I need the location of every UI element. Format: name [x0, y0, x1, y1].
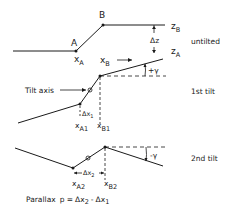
label-plus-gamma: +γ	[148, 66, 159, 75]
untilted-profile	[13, 24, 165, 54]
delta-x2-arrowhead-left-icon	[74, 172, 77, 175]
label-z-b: zB	[171, 21, 180, 34]
label-point-a: A	[71, 38, 78, 48]
point-a2-marker	[72, 167, 75, 170]
point-b-marker	[102, 24, 105, 27]
label-x-b: xB	[100, 55, 110, 68]
label-x-b2: xB2	[104, 179, 117, 191]
label-tilt-axis: Tilt axis	[24, 86, 54, 95]
label-minus-gamma: -γ	[150, 151, 158, 160]
label-delta-z: Δz	[150, 36, 159, 45]
label-second-tilt: 2nd tilt	[191, 154, 218, 163]
label-first-tilt: 1st tilt	[191, 87, 215, 96]
label-z-a: zA	[171, 46, 181, 59]
label-point-b: B	[99, 10, 105, 20]
label-x-a1: xA1	[75, 121, 88, 133]
parallax-formula: Parallaxp =Δx2-Δx1	[26, 195, 109, 206]
label-x-a2: xA2	[72, 179, 85, 191]
label-x-a: xA	[74, 54, 84, 67]
delta-x2-arrowhead-right-icon	[101, 172, 104, 175]
point-a1-marker	[79, 103, 82, 106]
point-a-marker	[75, 50, 78, 53]
label-x-b1: xB1	[97, 121, 110, 133]
label-delta-x1: Δx1	[82, 110, 93, 119]
label-untilted: untilted	[191, 37, 220, 46]
parallax-diagram: B A xA zB zA Δz untilted xB +γ Tilt axis…	[0, 0, 236, 209]
delta-z-arrowhead-down-icon	[152, 50, 156, 53]
delta-z-arrowhead-up-icon	[152, 26, 156, 29]
